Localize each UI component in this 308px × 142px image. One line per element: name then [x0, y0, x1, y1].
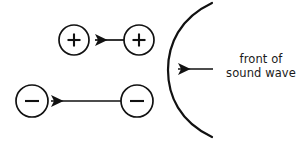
minus-particle-right — [121, 85, 153, 117]
plus-sign-icon — [68, 34, 81, 47]
minus-particle-left — [16, 85, 48, 117]
plus-particle-right — [124, 25, 154, 55]
sound-wave-front-arc — [168, 3, 212, 137]
wave-front-label-line1: front of — [218, 53, 304, 67]
plus-sign-icon — [133, 34, 146, 47]
wave-front-label-line2: sound wave — [218, 67, 304, 81]
sound-wave-diagram: front of sound wave — [0, 0, 308, 142]
wave-front-label: front of sound wave — [218, 53, 304, 80]
plus-particle-left — [59, 25, 89, 55]
